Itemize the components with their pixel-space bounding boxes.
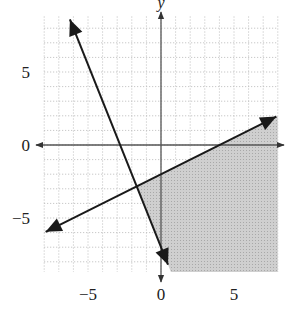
boundary-line-2: [70, 19, 168, 264]
chart: −50550−5y: [0, 0, 294, 314]
y-axis-label: y: [155, 0, 165, 12]
shaded-region: [137, 116, 278, 272]
y-tick-label: 0: [22, 136, 31, 155]
x-tick-label: −5: [79, 285, 97, 304]
x-tick-label: 0: [157, 285, 166, 304]
y-tick-label: 5: [22, 63, 31, 82]
x-tick-label: 5: [230, 285, 239, 304]
y-tick-label: −5: [12, 209, 30, 228]
